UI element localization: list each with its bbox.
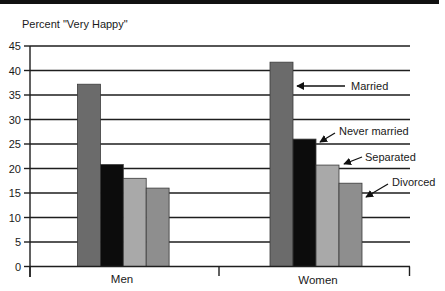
bar-men-separated	[123, 178, 146, 266]
y-tick-label-5: 5	[15, 236, 21, 248]
bar-chart: Percent "Very Happy" 051015202530354045 …	[0, 0, 445, 291]
bar-women-never-married	[293, 139, 316, 266]
category-label-women: Women	[298, 274, 337, 286]
category-label-men: Men	[111, 273, 133, 285]
bar-men-never-married	[100, 165, 123, 267]
y-tick-label-25: 25	[9, 138, 21, 150]
arrow-divorced	[366, 184, 388, 197]
annotation-separated: Separated	[365, 151, 416, 163]
y-tick-label-15: 15	[9, 187, 21, 199]
arrow-never-married	[320, 133, 335, 142]
arrow-separated	[344, 157, 362, 164]
y-axis-tick-labels: 051015202530354045	[9, 40, 21, 273]
bars	[78, 62, 363, 266]
y-tick-label-20: 20	[9, 163, 21, 175]
bar-men-married	[78, 84, 101, 266]
bar-women-divorced	[339, 183, 362, 266]
y-tick-label-40: 40	[9, 65, 21, 77]
bar-women-married	[270, 62, 293, 266]
annotation-married: Married	[351, 80, 388, 92]
y-tick-label-0: 0	[15, 261, 21, 273]
bar-women-separated	[316, 165, 339, 266]
top-rule	[0, 0, 439, 4]
annotation-never-married: Never married	[339, 125, 409, 137]
y-tick-label-35: 35	[9, 89, 21, 101]
y-tick-label-45: 45	[9, 40, 21, 52]
y-axis-title: Percent "Very Happy"	[22, 18, 128, 30]
y-tick-label-10: 10	[9, 212, 21, 224]
bar-men-divorced	[146, 188, 169, 266]
y-tick-label-30: 30	[9, 114, 21, 126]
annotation-divorced: Divorced	[392, 176, 435, 188]
